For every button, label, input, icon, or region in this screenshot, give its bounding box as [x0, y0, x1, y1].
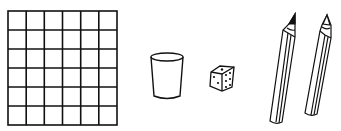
- pencil-left-icon: [270, 14, 295, 123]
- grid-icon: [8, 11, 117, 125]
- pencil-right-icon: [305, 15, 331, 115]
- illustration-canvas: [0, 0, 341, 131]
- cup-icon: [151, 53, 183, 99]
- die-icon: [210, 66, 234, 91]
